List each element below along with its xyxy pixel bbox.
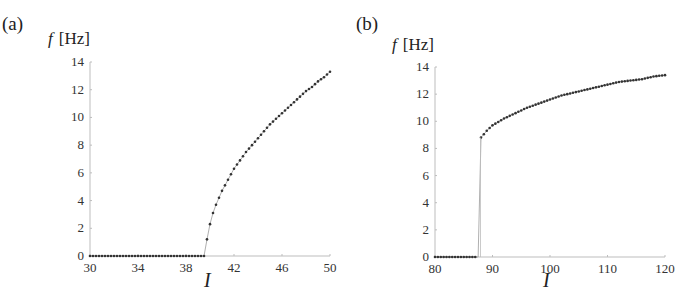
panel-a-data-point [221, 190, 224, 193]
panel-a-data-point [128, 255, 131, 258]
panel-b-data-point [563, 94, 566, 97]
panel-a-data-point [326, 73, 329, 76]
panel-a-data-point [302, 93, 305, 96]
panel-b-data-point [529, 105, 532, 108]
panel-b-data-point [649, 76, 652, 79]
panel-b-xtick-label: 80 [429, 261, 442, 276]
panel-a-data-point [206, 238, 209, 241]
panel-a-data-point [164, 255, 167, 258]
panel-b-data-point [554, 96, 557, 99]
panel-a-data-point [278, 115, 281, 118]
panel-a-xlabel: I [203, 269, 212, 291]
panel-a-data-point [260, 133, 263, 136]
panel-a-data-point [125, 255, 128, 258]
panel-b-ylabel: f[Hz] [392, 35, 434, 54]
panel-b-data-point [442, 256, 445, 259]
panel-b-xlabel: I [542, 269, 551, 291]
panel-a-data-point [146, 255, 149, 258]
panel-b-data-point [494, 122, 497, 125]
panel-a-data-point [131, 255, 134, 258]
panel-a-data-point [269, 123, 272, 126]
panel-a-ylabel: f[Hz] [48, 29, 90, 48]
panel-a-data-point [101, 255, 104, 258]
panel-b-data-point [465, 256, 468, 259]
panel-a-data-point [170, 255, 173, 258]
panel-b-data-point [572, 91, 575, 94]
panel-b-ytick-label: 6 [423, 168, 430, 183]
panel-a-data-point [116, 255, 119, 258]
panel-b-data-point [623, 80, 626, 83]
panel-a-data-point [242, 155, 245, 158]
panel-a-data-point [167, 255, 170, 258]
panel-b-data-point [462, 256, 465, 259]
panel-b-data-point [511, 113, 514, 116]
panel-b-data-point [448, 256, 451, 259]
panel-a-data-point [254, 140, 257, 143]
panel-a-data-point [230, 173, 233, 176]
panel-a-ytick-label: 12 [71, 82, 84, 97]
panel-a-data-point [323, 76, 326, 79]
panel-a-ytick-label: 8 [78, 137, 85, 152]
panel-b-plot-area [434, 74, 667, 258]
panel-a-data-point [308, 88, 311, 91]
panel-a-data-point [248, 147, 251, 150]
panel-b-data-point [621, 80, 624, 83]
panel-a-data-point [281, 112, 284, 115]
panel-a-data-point [173, 255, 176, 258]
panel-a-plot-area [89, 70, 332, 257]
panel-a-series-line [90, 72, 330, 256]
panel-a-data-point [296, 98, 299, 101]
panel-a-data-point [320, 78, 323, 81]
panel-b-xtick-label: 90 [486, 261, 499, 276]
panel-a-data-point [98, 255, 101, 258]
panel-b-data-point [488, 127, 491, 130]
panel-a-data-point [110, 255, 113, 258]
panel-a-data-point [152, 255, 155, 258]
panel-b-data-point [485, 129, 488, 132]
panel-a-data-point [92, 255, 95, 258]
panel-a-data-point [143, 255, 146, 258]
panel-b-data-point [598, 85, 601, 88]
panel-b-data-point [503, 117, 506, 120]
panel-b-data-point [626, 80, 629, 83]
panel-b-xtick-label: 110 [598, 261, 617, 276]
panel-a-data-point [290, 104, 293, 107]
panel-a-data-point [188, 255, 191, 258]
panel-a-data-point [266, 127, 269, 130]
panel-a-data-point [275, 118, 278, 121]
panel-a-ytick-label: 4 [78, 193, 85, 208]
panel-a-data-point [134, 255, 137, 258]
panel-a-data-point [176, 255, 179, 258]
panel-b-ytick-label: 4 [423, 195, 430, 210]
panel-b-data-point [434, 256, 437, 259]
panel-b-data-point [629, 79, 632, 82]
panel-a-data-point [299, 95, 302, 98]
panel-a-xtick-label: 38 [180, 260, 193, 275]
panel-a-ytick-label: 2 [78, 220, 85, 235]
panel-a-data-point [95, 255, 98, 258]
panel-b-data-point [500, 119, 503, 122]
panel-a-data-point [263, 130, 266, 133]
panel-a-data-point [149, 255, 152, 258]
panel-a-data-point [89, 255, 92, 258]
panel-a-xtick-label: 34 [132, 260, 146, 275]
panel-a-label: (a) [2, 13, 23, 35]
panel-a-data-point [122, 255, 125, 258]
panel-b-data-point [606, 83, 609, 86]
panel-b-data-point [531, 104, 534, 107]
panel-b-data-point [557, 95, 560, 98]
panel-a-data-point [161, 255, 164, 258]
panel-a-data-point [293, 101, 296, 104]
panel-b: (b) f[Hz] 024681012148090100110120 I [356, 13, 675, 291]
panel-a-xtick-label: 46 [276, 260, 290, 275]
panel-b-data-point [592, 87, 595, 90]
panel-b-ytick-label: 12 [416, 86, 429, 101]
panel-b-data-point [615, 81, 618, 84]
panel-a-xtick-label: 30 [84, 260, 97, 275]
panel-a-data-point [158, 255, 161, 258]
panel-b-data-point [600, 85, 603, 88]
panel-b-data-point [575, 91, 578, 94]
panel-b-data-point [437, 256, 440, 259]
panel-a-data-point [191, 255, 194, 258]
panel-a-data-point [272, 120, 275, 123]
